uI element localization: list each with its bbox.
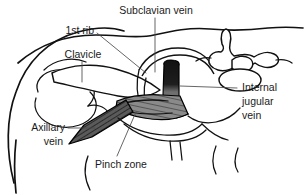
label-pinch-zone: Pinch zone bbox=[95, 158, 147, 170]
label-internal-jugular-line3: vein bbox=[242, 109, 261, 121]
label-axillary-vein-line2: vein bbox=[44, 135, 63, 147]
label-internal-jugular-line2: jugular bbox=[241, 95, 274, 107]
label-first-rib: 1st rib bbox=[65, 24, 94, 36]
label-subclavian-vein: Subclavian vein bbox=[119, 4, 193, 16]
anatomy-figure: Subclavian vein 1st rib Clavicle Interna… bbox=[0, 0, 305, 195]
label-axillary-vein-line1: Axillary bbox=[31, 121, 66, 133]
label-internal-jugular-line1: Internal bbox=[242, 81, 277, 93]
anatomy-diagram-canvas: Subclavian vein 1st rib Clavicle Interna… bbox=[0, 0, 305, 195]
label-clavicle: Clavicle bbox=[65, 48, 102, 60]
